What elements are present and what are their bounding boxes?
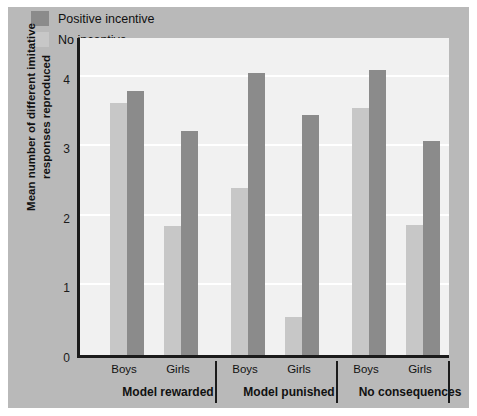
bar-positive-incentive-2 [248, 73, 265, 355]
bar-positive-incentive-0 [127, 91, 144, 355]
y-tick-label-2: 2 [44, 212, 70, 226]
bar-no-incentive-5 [406, 225, 423, 355]
x-tick-label-3: Girls [287, 363, 311, 375]
plot-frame [77, 38, 449, 358]
bar-no-incentive-4 [352, 108, 369, 355]
group-label-1: Model punished [243, 385, 334, 399]
bar-no-incentive-0 [110, 103, 127, 355]
plot-area [80, 38, 449, 355]
bar-positive-incentive-5 [423, 141, 440, 355]
x-tick-label-5: Girls [408, 363, 432, 375]
group-separator-0 [215, 361, 217, 403]
x-tick-label-0: Boys [111, 363, 137, 375]
y-tick-label-0: 0 [44, 351, 70, 365]
x-tick-label-1: Girls [166, 363, 190, 375]
bar-positive-incentive-1 [181, 131, 198, 355]
chart-figure: Positive incentive No incentive Mean num… [0, 0, 477, 416]
x-tick-label-4: Boys [353, 363, 379, 375]
group-label-2: No consequences [359, 385, 462, 399]
bar-positive-incentive-3 [302, 115, 319, 355]
x-tick-label-2: Boys [232, 363, 258, 375]
group-separator-2 [448, 361, 450, 403]
y-axis-ticks: 01234 [40, 38, 70, 358]
legend-label-positive-incentive: Positive incentive [58, 12, 155, 26]
x-axis: BoysGirlsBoysGirlsBoysGirlsModel rewarde… [77, 361, 449, 411]
y-tick-label-1: 1 [44, 281, 70, 295]
bar-no-incentive-1 [164, 226, 181, 355]
group-label-0: Model rewarded [122, 385, 213, 399]
bar-positive-incentive-4 [369, 70, 386, 355]
y-tick-label-3: 3 [44, 142, 70, 156]
y-tick-label-4: 4 [44, 73, 70, 87]
bar-no-incentive-3 [285, 317, 302, 355]
group-separator-1 [336, 361, 338, 403]
bar-no-incentive-2 [231, 188, 248, 355]
